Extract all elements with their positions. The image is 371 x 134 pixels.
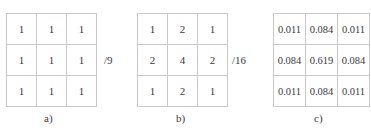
grid-cell: 1 xyxy=(7,45,37,76)
grid-cell: 0.619 xyxy=(306,45,338,76)
grid-row: 1 1 1 xyxy=(7,14,97,45)
grid-cell: 4 xyxy=(168,45,198,76)
grid-row: 0.011 0.084 0.011 xyxy=(274,14,370,45)
grid-row: 2 4 2 xyxy=(138,45,228,76)
grid-cell: 1 xyxy=(198,14,228,45)
divisor-label-a: /9 xyxy=(104,54,113,66)
grid-row: 1 2 1 xyxy=(138,76,228,107)
grid-cell: 1 xyxy=(198,76,228,107)
grid-cell: 0.011 xyxy=(338,76,370,107)
grid-cell: 1 xyxy=(67,76,97,107)
grid-cell: 0.011 xyxy=(274,76,306,107)
caption-b: b) xyxy=(176,112,185,124)
grid-cell: 0.084 xyxy=(338,45,370,76)
grid-cell: 1 xyxy=(37,14,67,45)
grid-cell: 0.084 xyxy=(306,76,338,107)
grid-cell: 1 xyxy=(67,14,97,45)
grid-cell: 2 xyxy=(168,14,198,45)
grid-cell: 2 xyxy=(138,45,168,76)
divisor-label-b: /16 xyxy=(232,54,246,66)
grid-cell: 2 xyxy=(198,45,228,76)
grid-cell: 0.084 xyxy=(274,45,306,76)
grid-row: 0.011 0.084 0.011 xyxy=(274,76,370,107)
grid-cell: 1 xyxy=(7,14,37,45)
grid-cell: 1 xyxy=(138,76,168,107)
grid-cell: 1 xyxy=(7,76,37,107)
grid-row: 1 1 1 xyxy=(7,45,97,76)
grid-cell: 1 xyxy=(37,76,67,107)
kernel-grid-a: 1 1 1 1 1 1 1 1 1 xyxy=(6,13,97,107)
grid-cell: 0.011 xyxy=(338,14,370,45)
grid-row: 1 1 1 xyxy=(7,76,97,107)
grid-cell: 0.084 xyxy=(306,14,338,45)
grid-row: 1 2 1 xyxy=(138,14,228,45)
caption-a: a) xyxy=(44,112,53,124)
kernel-grid-c: 0.011 0.084 0.011 0.084 0.619 0.084 0.01… xyxy=(273,13,370,107)
grid-cell: 1 xyxy=(37,45,67,76)
grid-cell: 2 xyxy=(168,76,198,107)
kernel-grid-b: 1 2 1 2 4 2 1 2 1 xyxy=(137,13,228,107)
grid-row: 0.084 0.619 0.084 xyxy=(274,45,370,76)
caption-c: c) xyxy=(314,112,323,124)
grid-cell: 1 xyxy=(67,45,97,76)
grid-cell: 1 xyxy=(138,14,168,45)
grid-cell: 0.011 xyxy=(274,14,306,45)
